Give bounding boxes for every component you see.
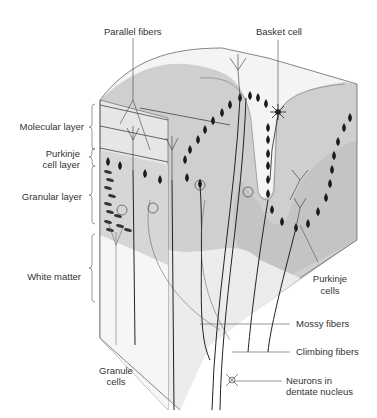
label-basket-cell: Basket cell [256, 26, 302, 37]
label-neurons-dentate-2: dentate nucleus [286, 386, 353, 397]
label-white-matter: White matter [14, 271, 81, 282]
label-purkinje-cells-1: Purkinje [305, 273, 355, 284]
label-granular-layer: Granular layer [10, 191, 82, 202]
label-purkinje-cell-layer-2: cell layer [14, 159, 80, 170]
dentate-neuron [226, 374, 238, 386]
label-purkinje-cells-2: cells [305, 285, 355, 296]
label-purkinje-cell-layer-1: Purkinje [14, 148, 80, 159]
label-climbing-fibers: Climbing fibers [296, 346, 359, 357]
layer-braces [89, 104, 95, 302]
label-molecular-layer: Molecular layer [14, 121, 84, 132]
label-mossy-fibers: Mossy fibers [296, 318, 349, 329]
label-parallel-fibers: Parallel fibers [104, 26, 162, 37]
label-granule-cells-1: Granule [96, 365, 136, 376]
label-neurons-dentate-1: Neurons in [286, 375, 332, 386]
label-granule-cells-2: cells [96, 376, 136, 387]
